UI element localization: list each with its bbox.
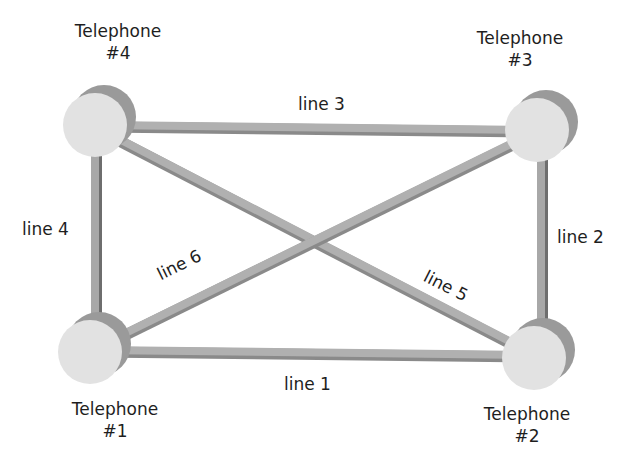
node-title: Telephone <box>457 403 597 425</box>
node-number: #2 <box>457 425 597 447</box>
edge-label-line-2: line 2 <box>557 226 604 248</box>
node-telephone-1[interactable] <box>58 312 131 384</box>
node-number: #1 <box>45 420 185 442</box>
node-number: #3 <box>450 49 590 71</box>
node-title: Telephone <box>450 27 590 49</box>
edge-line-3 <box>100 125 535 132</box>
node-label-telephone-1: Telephone #1 <box>45 398 185 442</box>
node-title: Telephone <box>45 398 185 420</box>
node-telephone-2[interactable] <box>502 318 575 390</box>
node-label-telephone-3: Telephone #3 <box>450 27 590 71</box>
edges <box>95 125 543 357</box>
edge-line-1 <box>95 350 530 357</box>
node-title: Telephone <box>48 20 188 42</box>
edge-label-line-1: line 1 <box>284 373 331 395</box>
edge-line-2 <box>541 135 543 350</box>
node-number: #4 <box>48 42 188 64</box>
edge-label-line-3: line 3 <box>298 93 345 115</box>
edge-label-line-4: line 4 <box>22 218 69 240</box>
node-label-telephone-4: Telephone #4 <box>48 20 188 64</box>
node-telephone-3[interactable] <box>505 90 578 162</box>
node-label-telephone-2: Telephone #2 <box>457 403 597 447</box>
